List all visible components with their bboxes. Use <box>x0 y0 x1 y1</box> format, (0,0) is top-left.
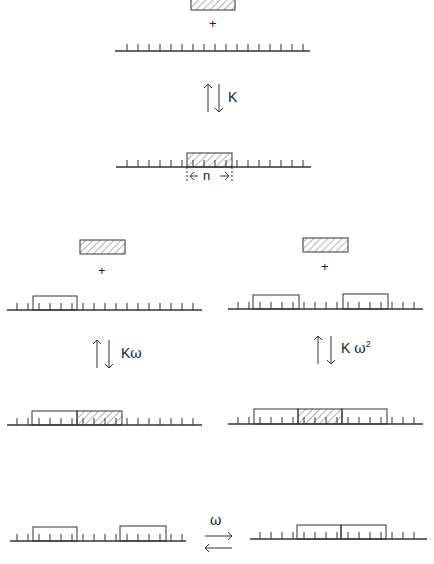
right-equilibrium-arrows <box>318 336 331 364</box>
top-free-ligand <box>191 0 235 10</box>
cooperativity-factor: ω <box>130 345 141 361</box>
top-plus-sign: + <box>209 16 217 31</box>
left-lattice-contiguous <box>7 411 202 425</box>
right-lattice-two-bound <box>228 294 423 309</box>
bottom-equilibrium-arrows <box>205 536 232 548</box>
bottom-lattice-isolated <box>10 526 186 541</box>
left-rate-constant-label: Kω <box>121 345 142 361</box>
rate-base: K <box>121 345 130 361</box>
right-free-ligand <box>303 238 348 252</box>
left-lattice-one-bound <box>7 296 202 310</box>
left-plus-sign: + <box>98 263 106 278</box>
right-rate-constant-label: K ω2 <box>341 339 371 356</box>
right-plus-sign: + <box>321 259 329 274</box>
left-equilibrium-arrows <box>97 340 109 368</box>
bottom-lattice-contiguous <box>250 525 427 539</box>
right-lattice-doubly-contiguous <box>228 409 423 424</box>
top-lattice-bound <box>116 153 311 182</box>
top-equilibrium-arrows <box>208 84 219 112</box>
cooperativity-factor: ω <box>354 340 365 356</box>
left-free-ligand <box>80 240 125 254</box>
bottom-forward-label: ω <box>210 512 221 528</box>
top-rate-constant-label: K <box>228 89 237 105</box>
exponent: 2 <box>366 339 371 349</box>
site-size-label: n <box>203 168 210 183</box>
rate-base: K <box>341 340 350 356</box>
diagram-canvas <box>0 0 434 564</box>
top-lattice-empty <box>115 44 310 51</box>
